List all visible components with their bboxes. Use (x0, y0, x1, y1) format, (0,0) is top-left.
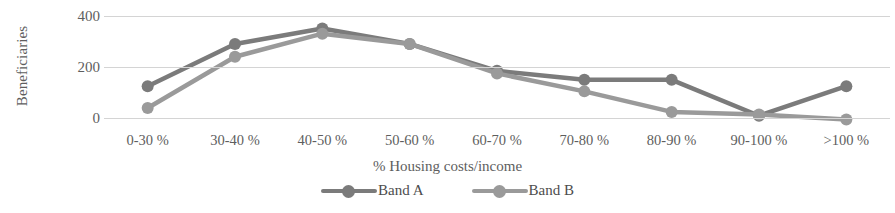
data-point (229, 38, 241, 50)
beneficiaries-line-chart: Beneficiaries 0200400 0-30 %30-40 %40-50… (0, 0, 895, 213)
x-tick-label: 90-100 % (715, 129, 802, 153)
data-point (666, 74, 678, 86)
x-tick-label: 80-90 % (628, 129, 715, 153)
data-point (142, 80, 154, 92)
data-point (840, 80, 852, 92)
data-point (666, 106, 678, 118)
data-point (229, 51, 241, 63)
data-point (578, 85, 590, 97)
x-tick-label: 0-30 % (104, 129, 191, 153)
x-tick-label: 50-60 % (366, 129, 453, 153)
legend-label: Band A (378, 182, 423, 199)
data-point (404, 38, 416, 50)
x-axis-tick-labels: 0-30 %30-40 %40-50 %50-60 %60-70 %70-80 … (104, 129, 890, 153)
legend-marker-icon (472, 184, 528, 198)
data-point (840, 114, 852, 126)
y-tick-label: 200 (56, 59, 100, 76)
x-axis-title: % Housing costs/income (0, 158, 895, 175)
legend-item-band-b[interactable]: Band B (472, 182, 574, 199)
legend-label: Band B (529, 182, 574, 199)
y-tick-label: 0 (56, 110, 100, 127)
data-point (578, 74, 590, 86)
data-point (491, 67, 503, 79)
legend-marker-icon (321, 184, 377, 198)
chart-legend: Band ABand B (0, 182, 895, 199)
data-point (142, 102, 154, 114)
x-tick-label: >100 % (803, 129, 890, 153)
x-tick-label: 70-80 % (541, 129, 628, 153)
y-tick-label: 400 (56, 7, 100, 24)
x-tick-label: 40-50 % (279, 129, 366, 153)
y-axis-tick-labels: 0200400 (52, 8, 100, 126)
legend-item-band-a[interactable]: Band A (321, 182, 423, 199)
plot-area (104, 8, 890, 126)
x-tick-label: 60-70 % (453, 129, 540, 153)
x-tick-label: 30-40 % (191, 129, 278, 153)
gridline-0 (104, 118, 890, 119)
gridline-200 (104, 67, 890, 68)
data-point (316, 28, 328, 40)
gridline-400 (104, 16, 890, 17)
